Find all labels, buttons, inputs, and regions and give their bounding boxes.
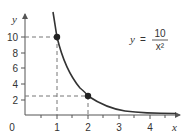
y-tick-label-2: 2 — [12, 95, 18, 106]
x-tick-label-2: 2 — [85, 122, 91, 133]
equation-denominator: x² — [156, 41, 165, 52]
chart: y x 10 8 6 4 2 0 1 2 3 4 y = 10 x² — [0, 0, 188, 140]
dashed-guides — [25, 37, 88, 115]
equation-y: y — [129, 33, 135, 45]
y-ticks — [21, 37, 25, 100]
point-2-2.5 — [85, 93, 91, 99]
x-tick-label-4: 4 — [147, 122, 153, 133]
equation-equals: = — [140, 34, 146, 45]
y-tick-label-10: 10 — [7, 32, 19, 43]
equation-annotation: y = 10 x² — [129, 28, 168, 52]
origin-label: 0 — [9, 122, 15, 133]
equation-numerator: 10 — [154, 28, 166, 39]
y-tick-label-4: 4 — [12, 79, 18, 90]
x-ticks — [41, 115, 165, 119]
x-tick-label-3: 3 — [116, 122, 122, 133]
y-tick-label-6: 6 — [12, 63, 18, 74]
x-tick-label-1: 1 — [54, 122, 60, 133]
y-axis-label: y — [11, 13, 17, 25]
y-tick-label-8: 8 — [12, 48, 18, 59]
point-1-10 — [54, 34, 60, 40]
x-axis-label: x — [171, 121, 177, 133]
